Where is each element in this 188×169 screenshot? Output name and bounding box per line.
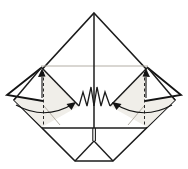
origami-diagram — [0, 0, 188, 169]
flap-right — [145, 68, 181, 101]
origami-diagram-canvas — [0, 0, 188, 169]
